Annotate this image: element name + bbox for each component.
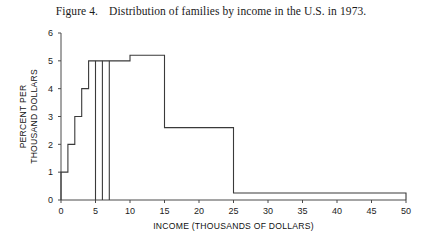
x-axis-title: INCOME (THOUSANDS OF DOLLARS) (153, 221, 314, 231)
y-tick-label: 6 (48, 28, 53, 38)
y-axis: 0123456 (48, 28, 61, 205)
x-tick-label: 40 (332, 206, 342, 216)
x-tick-label: 0 (58, 206, 63, 216)
histogram-bars (61, 55, 406, 200)
y-tick-label: 1 (48, 167, 53, 177)
y-tick-label: 5 (48, 56, 53, 66)
y-tick-label: 4 (48, 84, 53, 94)
y-axis-title: PERCENT PERTHOUSAND DOLLARS (18, 69, 39, 164)
x-tick-label: 20 (194, 206, 204, 216)
x-tick-label: 35 (297, 206, 307, 216)
x-axis-ticks: 05101520253035404550 (58, 200, 411, 216)
y-tick-label: 3 (48, 112, 53, 122)
x-tick-label: 10 (125, 206, 135, 216)
x-tick-label: 25 (228, 206, 238, 216)
x-axis: 05101520253035404550 (58, 200, 411, 216)
y-axis-title-line: THOUSAND DOLLARS (29, 69, 39, 164)
histogram-outline (61, 55, 406, 200)
x-tick-label: 15 (159, 206, 169, 216)
x-tick-label: 5 (93, 206, 98, 216)
x-tick-label: 50 (401, 206, 411, 216)
x-tick-label: 30 (263, 206, 273, 216)
histogram-plot: 0123456 05101520253035404550 INCOME (THO… (0, 0, 422, 241)
y-axis-ticks: 0123456 (48, 28, 61, 205)
chart-svg: 0123456 05101520253035404550 INCOME (THO… (0, 0, 422, 241)
y-tick-label: 0 (48, 195, 53, 205)
y-axis-title-line: PERCENT PER (18, 85, 28, 149)
y-tick-label: 2 (48, 140, 53, 150)
x-tick-label: 45 (366, 206, 376, 216)
